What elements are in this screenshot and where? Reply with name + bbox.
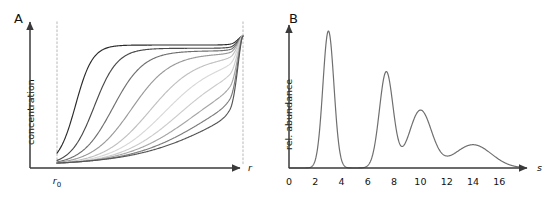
panel-b-plot	[279, 0, 559, 200]
panel-b-distribution-curve	[289, 31, 519, 168]
panel-b: B rel. abundance s 0246810121416	[279, 0, 559, 200]
panel-a-plot	[0, 0, 279, 200]
panel-a-boundary-lines	[57, 22, 243, 166]
boundary-curve-t1	[57, 36, 243, 153]
panel-a-boundary-curves	[57, 36, 243, 163]
panel-a: A concentration r r0	[0, 0, 279, 200]
sedimentation-figure: A concentration r r0 B rel. abundance s …	[0, 0, 559, 200]
